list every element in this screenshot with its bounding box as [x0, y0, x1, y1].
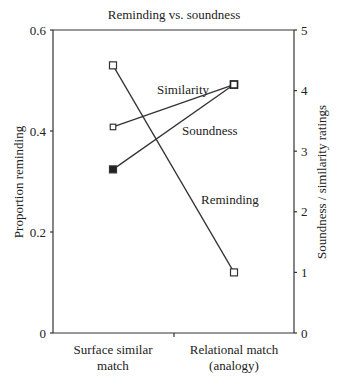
right-axis-label: Soundness / similarity ratings: [314, 105, 329, 259]
left-axis-label: Proportion reminding: [11, 125, 26, 238]
left-axis-ticks: 00.20.40.6: [30, 23, 53, 341]
reminding-vs-soundness-chart: Reminding vs. soundness 00.20.40.6 01234…: [0, 0, 341, 386]
plot-axes: [53, 30, 294, 337]
right-tick-label: 0: [301, 326, 308, 341]
right-tick-label: 3: [301, 144, 308, 159]
right-tick-label: 1: [301, 265, 308, 280]
right-tick-label: 2: [301, 204, 308, 219]
x-category-label: match: [97, 358, 129, 373]
left-tick-label: 0.6: [30, 23, 47, 38]
right-axis-ticks: 012345: [294, 23, 308, 341]
similarity-marker: [110, 124, 116, 129]
x-category-label: (analogy): [209, 358, 259, 373]
reminding-label: Reminding: [201, 192, 259, 207]
left-tick-label: 0: [40, 326, 47, 341]
left-tick-label: 0.4: [30, 124, 47, 139]
right-tick-label: 5: [301, 23, 308, 38]
x-category-label: Relational match: [190, 342, 279, 357]
shared-relational-marker: [231, 81, 238, 88]
chart-title: Reminding vs. soundness: [108, 7, 241, 22]
right-tick-label: 4: [301, 83, 308, 98]
x-category-label: Surface similar: [73, 342, 153, 357]
soundness-label: Soundness: [182, 123, 238, 138]
x-axis-categories: Surface similarmatchRelational match(ana…: [73, 342, 278, 373]
data-series: RemindingSimilaritySoundness: [110, 62, 260, 276]
left-tick-label: 0.2: [30, 225, 46, 240]
similarity-label: Similarity: [157, 82, 210, 97]
soundness-marker: [110, 166, 117, 173]
reminding-marker: [110, 62, 117, 69]
reminding-marker: [231, 269, 238, 276]
